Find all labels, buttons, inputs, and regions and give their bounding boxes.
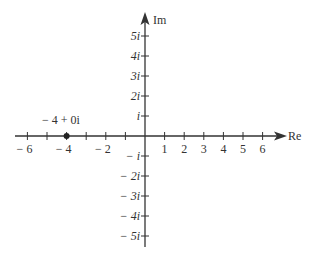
real-tick-label: − 6 — [17, 142, 33, 156]
point-label: − 4 + 0i — [42, 113, 81, 127]
real-axis-label: Re — [288, 129, 301, 143]
imag-tick-label: 5i — [131, 29, 140, 43]
imag-tick-label: 4i — [131, 49, 140, 63]
imag-tick-label: − 4i — [120, 209, 140, 223]
imag-tick-label: 2i — [131, 89, 140, 103]
real-tick-label: 1 — [162, 142, 168, 156]
imag-tick-label: − 3i — [120, 189, 140, 203]
data-point — [64, 133, 70, 139]
real-tick-label: 3 — [201, 142, 207, 156]
imag-tick-label: − 5i — [120, 229, 140, 243]
real-tick-label: 5 — [240, 142, 246, 156]
real-tick-label: − 4 — [56, 142, 72, 156]
real-tick-label: 4 — [220, 142, 226, 156]
imag-tick-label: i — [137, 109, 140, 123]
imag-tick-label: − i — [126, 149, 140, 163]
real-tick-label: 6 — [260, 142, 266, 156]
complex-plane: − 6− 4− 2123456 5i4i3i2ii− i− 2i− 3i− 4i… — [0, 0, 315, 263]
imag-tick-label: 3i — [130, 69, 140, 83]
imag-tick-label: − 2i — [120, 169, 140, 183]
imag-axis-label: Im — [153, 13, 167, 27]
real-tick-label: − 2 — [95, 142, 111, 156]
real-tick-label: 2 — [181, 142, 187, 156]
